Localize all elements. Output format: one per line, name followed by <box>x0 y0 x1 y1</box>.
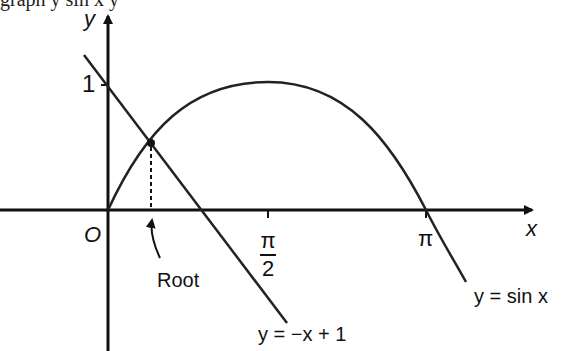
x-axis-label: x <box>526 218 537 240</box>
y-axis-label: y <box>84 8 95 30</box>
origin-label: O <box>84 224 101 246</box>
x-tick-label-pi-over-2: π 2 <box>260 230 276 280</box>
sine-curve <box>108 82 466 282</box>
root-point <box>147 139 155 147</box>
y-tick-label: 1 <box>82 72 95 96</box>
fraction-numerator: π <box>260 230 275 252</box>
root-label: Root <box>157 270 199 290</box>
fraction-denominator: 2 <box>262 258 274 280</box>
x-tick-label-pi: π <box>418 228 433 250</box>
root-arrow <box>151 220 160 258</box>
sine-curve-label: y = sin x <box>474 286 548 306</box>
line-label: y = −x + 1 <box>258 324 346 344</box>
